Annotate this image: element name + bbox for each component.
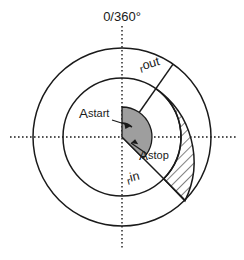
a-stop-prefix: A: [139, 148, 148, 163]
angle-zero-label: 0/360°: [103, 9, 141, 24]
r-in-label: rin: [125, 169, 142, 187]
a-stop-suffix: stop: [148, 149, 169, 161]
a-start-label: Astart: [79, 106, 109, 121]
r-out-suffix: out: [141, 54, 162, 72]
a-start-suffix: start: [88, 107, 109, 119]
hatched-annular-sector: [156, 89, 194, 201]
diagram-canvas: 0/360° rout rin Astart Astop: [0, 0, 244, 260]
r-out-label: rout: [137, 54, 162, 75]
a-stop-label: Astop: [139, 148, 169, 163]
angular-sector-diagram: 0/360° rout rin Astart Astop: [0, 0, 244, 260]
a-start-prefix: A: [79, 106, 88, 121]
r-in-suffix: in: [128, 169, 141, 185]
